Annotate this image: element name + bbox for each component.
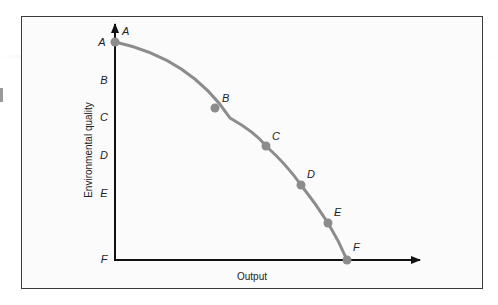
point-f — [343, 256, 352, 265]
point-a — [111, 38, 120, 47]
point-d — [297, 181, 306, 190]
point-e — [324, 219, 333, 228]
y-tick-b: B — [100, 74, 107, 86]
point-label-d: D — [307, 168, 315, 180]
point-label-f: F — [353, 241, 361, 253]
point-c — [262, 142, 271, 151]
y-tick-c: C — [100, 111, 108, 123]
y-tick-d: D — [100, 149, 108, 161]
point-label-c: C — [272, 130, 280, 142]
point-b — [211, 104, 220, 113]
ppf-diagram: A B C D E F A B C D E F Output Environme… — [0, 0, 498, 305]
y-tick-f: F — [101, 253, 109, 265]
point-label-e: E — [334, 206, 342, 218]
y-tick-e: E — [100, 187, 108, 199]
point-label-a: A — [121, 25, 129, 37]
frontier-curve — [115, 42, 347, 260]
y-tick-a: A — [97, 36, 105, 48]
point-label-b: B — [222, 92, 229, 104]
x-axis-label: Output — [237, 271, 267, 282]
y-axis-label: Environmental quality — [83, 102, 94, 198]
